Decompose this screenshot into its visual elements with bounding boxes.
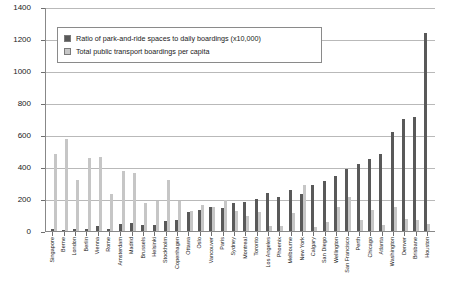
x-axis-label-slot: Los Angeles: [263, 237, 274, 294]
y-axis-tick-mark: [41, 40, 45, 41]
x-axis-tick: [399, 232, 410, 236]
x-axis-tick-mark: [336, 232, 337, 236]
bar: [413, 117, 416, 231]
x-axis-label-slot: Wellington: [331, 237, 342, 294]
bar: [371, 210, 374, 231]
bar: [76, 180, 79, 231]
x-axis-label-slot: Washington: [388, 237, 399, 294]
bar: [348, 197, 351, 231]
x-axis-label-slot: Berlin: [81, 237, 92, 294]
bar-group: [388, 8, 399, 231]
x-axis-label-slot: Houston: [422, 237, 433, 294]
x-axis-category-label: Atlanta: [379, 237, 384, 254]
x-axis-label-slot: Madrid: [127, 237, 138, 294]
x-axis-label-slot: Sydney: [229, 237, 240, 294]
x-axis-tick-mark: [52, 232, 53, 236]
x-axis-tick-mark: [234, 232, 235, 236]
x-axis-category-label: Calgary: [311, 237, 316, 256]
x-axis-tick-mark: [109, 232, 110, 236]
x-axis-tick-mark: [359, 232, 360, 236]
x-axis-tick: [104, 232, 115, 236]
x-axis-tick: [286, 232, 297, 236]
x-axis-category-label: Denver: [402, 237, 407, 255]
x-axis-category-label: Amsterdam: [118, 237, 123, 265]
bar: [280, 226, 283, 231]
bar: [382, 225, 385, 231]
x-axis-tick-mark: [177, 232, 178, 236]
x-axis-tick-mark: [416, 232, 417, 236]
y-axis-tick-label: 600: [0, 132, 31, 140]
x-axis-label-slot: Berne: [58, 237, 69, 294]
x-axis-category-label: Vancouver: [209, 237, 214, 263]
bar: [201, 205, 204, 231]
x-axis-tick: [229, 232, 240, 236]
legend-item: Ratio of park-and-ride spaces to daily b…: [64, 32, 315, 45]
x-axis-category-label: Singapore: [50, 237, 55, 262]
x-axis-tick-mark: [188, 232, 189, 236]
x-axis-category-label: Vienna: [95, 237, 100, 254]
y-axis-tick-label: 400: [0, 164, 31, 172]
x-axis-tick: [206, 232, 217, 236]
x-axis-label-slot: Vancouver: [206, 237, 217, 294]
x-axis-tick: [161, 232, 172, 236]
bar: [394, 207, 397, 231]
x-axis-tick-mark: [154, 232, 155, 236]
legend-label: Ratio of park-and-ride spaces to daily b…: [76, 35, 261, 42]
x-axis-tick-mark: [404, 232, 405, 236]
x-axis-tick: [149, 232, 160, 236]
bar-group: [343, 8, 354, 231]
bar-group: [354, 8, 365, 231]
y-axis-tick-mark: [41, 200, 45, 201]
x-axis-tick: [274, 232, 285, 236]
x-axis-label-slot: Calgary: [308, 237, 319, 294]
bar: [167, 180, 170, 231]
x-axis-tick: [217, 232, 228, 236]
legend-swatch-icon: [64, 48, 71, 55]
x-axis-tick: [240, 232, 251, 236]
x-axis-category-label: New York: [300, 237, 305, 261]
x-axis-tick-mark: [370, 232, 371, 236]
x-axis-tick-mark: [291, 232, 292, 236]
x-axis-tick-mark: [257, 232, 258, 236]
y-axis-tick-label: 0: [0, 228, 31, 236]
x-axis-tick-mark: [393, 232, 394, 236]
bar: [405, 219, 408, 231]
x-axis-label-slot: Copenhagen: [172, 237, 183, 294]
x-axis-category-label: San Francisco: [345, 237, 350, 273]
y-axis-tick-mark: [41, 136, 45, 137]
x-axis-tick: [172, 232, 183, 236]
x-axis-category-label: Perth: [357, 237, 362, 250]
x-axis-label-slot: Perth: [354, 237, 365, 294]
x-axis-category-label: Wellington: [334, 237, 339, 263]
x-axis-category-label: Ottawa: [186, 237, 191, 255]
x-axis-tick-mark: [200, 232, 201, 236]
bar: [314, 227, 317, 231]
x-axis-category-label: Los Angeles: [266, 237, 271, 267]
x-axis-category-label: Sydney: [232, 237, 237, 256]
bar-group: [411, 8, 422, 231]
x-axis-tick: [320, 232, 331, 236]
x-axis-tick: [388, 232, 399, 236]
x-axis-tick-mark: [223, 232, 224, 236]
x-axis-category-label: Phoenix: [277, 237, 282, 257]
bar: [224, 200, 227, 231]
x-axis-category-label: Oslo: [198, 237, 203, 248]
x-axis-tick: [365, 232, 376, 236]
x-axis-tick-mark: [245, 232, 246, 236]
x-axis-category-label: Rome: [107, 237, 112, 252]
bar: [190, 211, 193, 231]
x-axis-label-slot: San Diego: [320, 237, 331, 294]
x-axis-tick: [70, 232, 81, 236]
x-axis-label-slot: Brisbane: [411, 237, 422, 294]
bar: [110, 194, 113, 231]
x-axis-tick: [183, 232, 194, 236]
bar: [379, 154, 382, 231]
x-axis-label-slot: Oslo: [195, 237, 206, 294]
x-axis-ticks: [45, 232, 435, 236]
x-axis-label-slot: Rome: [104, 237, 115, 294]
bar: [402, 119, 405, 231]
x-axis-label-slot: Toronto: [251, 237, 262, 294]
x-axis-category-label: Brisbane: [413, 237, 418, 259]
bar: [144, 203, 147, 231]
x-axis-tick-mark: [120, 232, 121, 236]
